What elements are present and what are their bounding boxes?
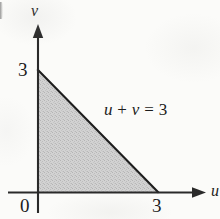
- u-axis-arrowhead-icon: [192, 187, 206, 198]
- y-axis-tick-label-3: 3: [18, 60, 28, 79]
- x-axis-tick-label-3: 3: [152, 196, 162, 215]
- u-axis-label: u: [211, 183, 219, 199]
- v-axis-arrowhead-icon: [33, 24, 43, 38]
- boundary-line-equation-label: u + v = 3: [104, 101, 167, 118]
- equation-operator-equals: =: [140, 100, 159, 119]
- v-axis-label: v: [31, 3, 38, 19]
- math-figure-shaded-triangle: v u 3 0 3 u + v = 3: [0, 0, 220, 219]
- equation-operator-plus: +: [113, 100, 132, 119]
- equation-term-u: u: [104, 100, 113, 119]
- equation-value-three: 3: [159, 100, 168, 119]
- equation-term-v: v: [132, 100, 140, 119]
- origin-label: 0: [20, 196, 30, 215]
- page-edge-artifact: [0, 2, 3, 19]
